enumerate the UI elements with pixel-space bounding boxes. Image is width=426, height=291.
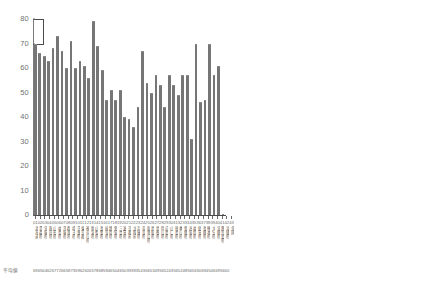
value-row: 6965646267726658735962605578685846504650… (33, 268, 226, 274)
bar[interactable] (61, 51, 64, 215)
bar[interactable] (105, 100, 108, 215)
bar[interactable] (132, 127, 135, 215)
x-tick-category-name: 全国 (229, 226, 234, 256)
x-tick-mark (35, 216, 36, 219)
x-tick-mark (166, 216, 167, 219)
x-tick-mark (184, 216, 185, 219)
value-row-caption: 平均値 (3, 268, 18, 274)
y-tick-label: 80 (20, 15, 33, 23)
x-tick-mark (226, 216, 227, 219)
bar[interactable] (208, 44, 211, 216)
x-tick-mark (86, 216, 87, 219)
bar[interactable] (146, 83, 149, 215)
x-tick-mark (170, 216, 171, 219)
x-tick-mark (49, 216, 50, 219)
x-tick-mark (44, 216, 45, 219)
bar[interactable] (141, 51, 144, 215)
bar[interactable] (163, 107, 166, 215)
x-tick-mark (128, 216, 129, 219)
bar[interactable] (52, 48, 55, 215)
x-tick-mark (91, 216, 92, 219)
bar[interactable] (47, 61, 50, 215)
x-tick-mark (105, 216, 106, 219)
x-tick-mark (63, 216, 64, 219)
bar[interactable] (114, 100, 117, 215)
x-axis-labels: 01北海道02青森県03宮城県04秋田県05山形県06福島県07茨城県08群馬県… (33, 216, 226, 256)
bar[interactable] (190, 139, 193, 215)
x-tick-mark (82, 216, 83, 219)
x-tick-mark (208, 216, 209, 219)
bar[interactable] (195, 44, 198, 216)
x-tick-mark (110, 216, 111, 219)
bar[interactable] (213, 75, 216, 215)
x-tick-mark (133, 216, 134, 219)
y-tick-label: 30 (20, 138, 33, 146)
bar[interactable] (217, 66, 220, 215)
plot-area: 01020304050607080 (33, 19, 225, 215)
x-axis-label-group[interactable]: 43全国 (229, 216, 234, 256)
x-tick-number: 43 (229, 220, 234, 225)
bar[interactable] (110, 90, 113, 215)
bar[interactable] (74, 68, 77, 215)
bar[interactable] (155, 75, 158, 215)
bar[interactable] (92, 21, 95, 215)
bar-slot[interactable] (221, 19, 225, 215)
bar[interactable] (150, 93, 153, 216)
bar[interactable] (204, 100, 207, 215)
y-tick-label: 50 (20, 89, 33, 97)
bar[interactable] (222, 214, 225, 215)
x-tick-mark (124, 216, 125, 219)
x-tick-mark (58, 216, 59, 219)
x-tick-mark (198, 216, 199, 219)
x-tick-mark (54, 216, 55, 219)
y-tick-label: 70 (20, 40, 33, 48)
bar[interactable] (199, 102, 202, 215)
x-tick-mark (194, 216, 195, 219)
x-tick-mark (212, 216, 213, 219)
bar[interactable] (101, 70, 104, 215)
x-tick-mark (142, 216, 143, 219)
bar[interactable] (119, 90, 122, 215)
x-tick-mark (95, 216, 96, 219)
x-tick-mark (40, 216, 41, 219)
x-tick-mark (147, 216, 148, 219)
x-tick-mark (152, 216, 153, 219)
x-tick-mark (189, 216, 190, 219)
x-tick-mark (203, 216, 204, 219)
bar[interactable] (123, 117, 126, 215)
x-tick-mark (114, 216, 115, 219)
x-tick-mark (180, 216, 181, 219)
bar[interactable] (34, 44, 37, 216)
x-tick-mark (77, 216, 78, 219)
bar[interactable] (96, 46, 99, 215)
x-tick-mark (119, 216, 120, 219)
bar[interactable] (168, 75, 171, 215)
bar[interactable] (83, 66, 86, 215)
bar[interactable] (172, 85, 175, 215)
x-tick-mark (161, 216, 162, 219)
bar-series (33, 19, 225, 215)
x-tick-mark (72, 216, 73, 219)
bar[interactable] (65, 68, 68, 215)
x-tick-mark (100, 216, 101, 219)
bar[interactable] (137, 107, 140, 215)
bar[interactable] (177, 95, 180, 215)
bar-chart: 01020304050607080 01北海道02青森県03宮城県04秋田県05… (0, 0, 426, 291)
bar[interactable] (87, 78, 90, 215)
x-tick-mark (222, 216, 223, 219)
bar[interactable] (70, 41, 73, 215)
value-cell: 60 (225, 268, 230, 274)
x-tick-mark (217, 216, 218, 219)
bar[interactable] (38, 53, 41, 215)
bar[interactable] (56, 36, 59, 215)
bar[interactable] (43, 56, 46, 215)
bar[interactable] (159, 85, 162, 215)
x-tick-mark (68, 216, 69, 219)
x-tick-mark (156, 216, 157, 219)
bar[interactable] (128, 119, 131, 215)
bar[interactable] (186, 75, 189, 215)
bar[interactable] (79, 61, 82, 215)
bar[interactable] (181, 75, 184, 215)
y-tick-label: 0 (25, 211, 33, 219)
x-tick-mark (175, 216, 176, 219)
